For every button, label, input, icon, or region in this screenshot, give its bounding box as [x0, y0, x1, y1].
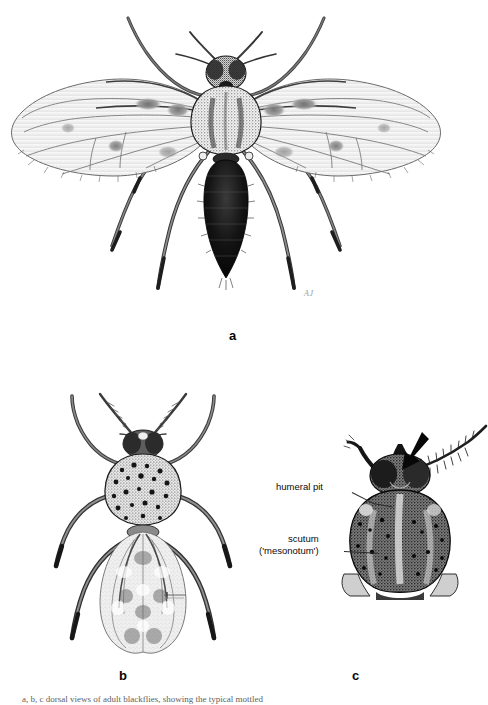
illustration-plate: humeral pit scutum ('mesonotum') a b c A…: [0, 0, 488, 705]
label-mesonotum-text: ('mesonotum'): [259, 545, 319, 557]
label-scutum-text: scutum: [288, 533, 319, 544]
panel-a-figure: [0, 0, 488, 320]
panel-b-thorax: [105, 454, 181, 539]
panel-letter-b: b: [119, 668, 127, 683]
panel-letter-a: a: [229, 328, 236, 343]
panel-a-right-wing: [246, 79, 441, 182]
panel-letter-c: c: [352, 668, 359, 683]
pointer-arrow-icon: [398, 430, 432, 474]
figure-caption: a, b, c dorsal views of adult blackflies…: [0, 694, 488, 705]
scale-mark: [162, 590, 190, 602]
panel-a-abdomen: [197, 160, 255, 290]
panel-b-figure: [48, 386, 238, 656]
label-humeral-pit-text: humeral pit: [276, 481, 323, 492]
artist-signature: AJ: [304, 289, 313, 298]
panel-c-thorax: [342, 490, 458, 600]
label-humeral-pit: humeral pit: [276, 481, 323, 493]
panel-a-left-wing: [12, 79, 207, 182]
label-scutum: scutum ('mesonotum'): [259, 533, 319, 557]
